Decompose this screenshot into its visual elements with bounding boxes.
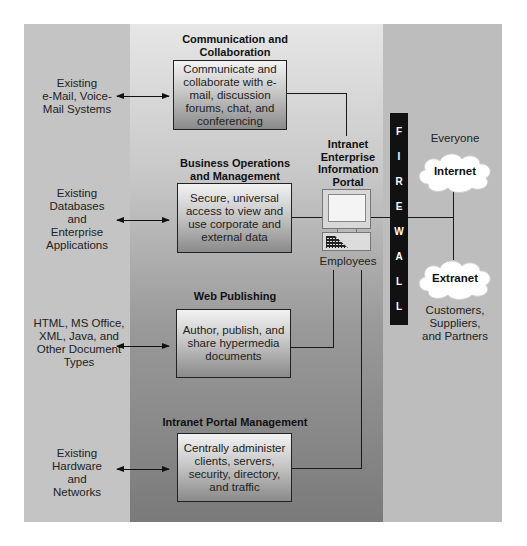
source-line: Hardware xyxy=(28,460,126,473)
function-description: Secure, universal access to view and use… xyxy=(182,192,287,244)
source-line: HTML, MS Office, xyxy=(28,317,130,330)
connector-web-publishing xyxy=(291,347,334,348)
audience-line: Suppliers, xyxy=(410,317,500,330)
firewall-letter: E xyxy=(396,202,403,212)
source-line: e-Mail, Voice- xyxy=(28,90,126,103)
bidirectional-arrow-icon xyxy=(117,469,169,470)
portal-label-line: Enterprise xyxy=(318,151,378,164)
connector-internet-extranet xyxy=(453,190,454,260)
connector-web-publishing xyxy=(333,270,334,348)
connector-portal-to-network xyxy=(371,217,454,218)
function-description: Centrally administer clients, servers, s… xyxy=(182,442,287,494)
section-title-communication: Communication and Collaboration xyxy=(160,33,310,59)
bidirectional-arrow-icon xyxy=(117,220,169,221)
function-box-communication: Communicate and collaborate with e-mail,… xyxy=(173,60,287,130)
source-line: Applications xyxy=(28,239,126,252)
internet-label: Internet xyxy=(414,148,496,194)
title-line: Business Operations xyxy=(165,157,305,170)
source-line: XML, Java, and xyxy=(28,330,130,343)
extranet-cloud: Extranet xyxy=(414,255,496,301)
title-line: Collaboration xyxy=(160,46,310,59)
source-line: Mail Systems xyxy=(28,103,126,116)
firewall-letter: W xyxy=(394,227,403,237)
bidirectional-arrow-icon xyxy=(117,346,169,347)
firewall-letter: R xyxy=(395,177,402,187)
keyboard-keys xyxy=(326,236,348,248)
connector-portal-management xyxy=(361,270,362,469)
audience-line: and Partners xyxy=(410,330,500,343)
bidirectional-arrow-icon xyxy=(117,96,169,97)
firewall-letter: F xyxy=(396,127,402,137)
portal-label: Intranet Enterprise Information Portal xyxy=(318,138,378,188)
portal-label-line: Intranet xyxy=(318,138,378,151)
source-databases: Existing Databases and Enterprise Applic… xyxy=(28,187,126,252)
desktop-computer-icon xyxy=(322,189,371,229)
source-line: and xyxy=(28,213,126,226)
internet-cloud: Internet xyxy=(414,148,496,194)
source-email-systems: Existing e-Mail, Voice- Mail Systems xyxy=(28,77,126,116)
title-line: and Management xyxy=(165,170,305,183)
title-line: Intranet Portal Management xyxy=(155,416,315,429)
source-document-types: HTML, MS Office, XML, Java, and Other Do… xyxy=(28,317,130,369)
source-line: Databases xyxy=(28,200,126,213)
source-line: Enterprise xyxy=(28,226,126,239)
keyboard-icon xyxy=(322,232,371,251)
source-line: Other Document xyxy=(28,343,130,356)
source-line: Existing xyxy=(28,447,126,460)
source-line: Types xyxy=(28,356,130,369)
source-line: Existing xyxy=(28,187,126,200)
connector-business-operations xyxy=(292,217,322,218)
source-line: Networks xyxy=(28,486,126,499)
source-line: Existing xyxy=(28,77,126,90)
connector-communication xyxy=(346,93,347,136)
firewall-bar: F I R E W A L L xyxy=(390,113,408,325)
firewall-letter: I xyxy=(398,152,401,162)
internet-audience-label: Everyone xyxy=(415,132,495,145)
source-hardware-networks: Existing Hardware and Networks xyxy=(28,447,126,499)
function-box-web-publishing: Author, publish, and share hypermedia do… xyxy=(176,309,291,378)
function-description: Author, publish, and share hypermedia do… xyxy=(181,324,286,363)
connector-communication xyxy=(287,93,347,94)
firewall-letter: L xyxy=(396,302,402,312)
section-title-portal-management: Intranet Portal Management xyxy=(155,416,315,429)
monitor-screen xyxy=(328,194,366,222)
source-line: and xyxy=(28,473,126,486)
extranet-label: Extranet xyxy=(414,255,496,301)
portal-label-line: Information xyxy=(318,163,378,176)
connector-portal-management xyxy=(292,468,362,469)
title-line: Communication and xyxy=(160,33,310,46)
audience-line: Customers, xyxy=(410,304,500,317)
extranet-audience-label: Customers, Suppliers, and Partners xyxy=(410,304,500,343)
title-line: Web Publishing xyxy=(165,290,305,303)
function-box-portal-management: Centrally administer clients, servers, s… xyxy=(177,433,292,502)
function-box-business-operations: Secure, universal access to view and use… xyxy=(177,183,292,253)
portal-label-line: Portal xyxy=(318,176,378,189)
employees-label: Employees xyxy=(318,255,378,267)
firewall-letter: L xyxy=(396,277,402,287)
section-title-business-operations: Business Operations and Management xyxy=(165,157,305,183)
section-title-web-publishing: Web Publishing xyxy=(165,290,305,303)
firewall-letter: A xyxy=(395,252,402,262)
function-description: Communicate and collaborate with e-mail,… xyxy=(178,63,282,128)
